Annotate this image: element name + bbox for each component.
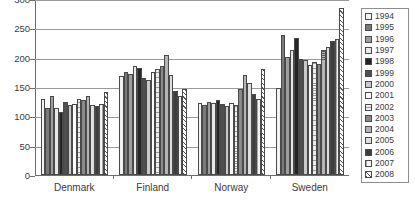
- legend-item-1998[interactable]: 1998: [365, 56, 406, 67]
- legend-item-label: 2003: [375, 114, 394, 123]
- legend-swatch-icon: [365, 160, 372, 167]
- legend-item-label: 1995: [375, 23, 394, 32]
- bar-sweden-2008[interactable]: [339, 8, 344, 175]
- bar-group-finland: [114, 0, 193, 175]
- legend-item-label: 1997: [375, 46, 394, 55]
- legend-item-label: 2004: [375, 125, 394, 134]
- legend-swatch-icon: [365, 47, 372, 54]
- legend-swatch-icon: [365, 24, 372, 31]
- legend-item-label: 2006: [375, 148, 394, 157]
- bar-set: [198, 0, 266, 175]
- bar-norway-2008[interactable]: [261, 69, 266, 175]
- legend-item-label: 2001: [375, 91, 394, 100]
- legend-item-label: 1998: [375, 57, 394, 66]
- legend-item-label: 2002: [375, 103, 394, 112]
- legend-swatch-icon: [365, 171, 372, 178]
- legend-item-1995[interactable]: 1995: [365, 22, 406, 33]
- y-axis-tick-label: 150: [2, 83, 30, 93]
- legend-item-1997[interactable]: 1997: [365, 45, 406, 56]
- legend-swatch-icon: [365, 81, 372, 88]
- legend-item-label: 2008: [375, 170, 394, 179]
- plot-area: 300250200150100500 DenmarkFinlandNorwayS…: [0, 0, 355, 204]
- legend-item-1994[interactable]: 1994: [365, 11, 406, 22]
- bar-groups: [35, 0, 349, 175]
- x-axis-label-norway: Norway: [192, 182, 271, 193]
- legend-swatch-icon: [365, 58, 372, 65]
- legend-item-label: 2007: [375, 159, 394, 168]
- bar-denmark-2008[interactable]: [104, 92, 109, 175]
- y-axis-tick-label: 50: [2, 142, 30, 152]
- legend-item-2001[interactable]: 2001: [365, 90, 406, 101]
- legend-swatch-icon: [365, 36, 372, 43]
- y-axis-tick-label: 200: [2, 54, 30, 64]
- legend-item-2008[interactable]: 2008: [365, 169, 406, 180]
- legend-item-2000[interactable]: 2000: [365, 79, 406, 90]
- legend-item-2002[interactable]: 2002: [365, 101, 406, 112]
- legend-item-2007[interactable]: 2007: [365, 158, 406, 169]
- legend-item-1996[interactable]: 1996: [365, 34, 406, 45]
- y-axis-tick-label: 250: [2, 24, 30, 34]
- legend-swatch-icon: [365, 137, 372, 144]
- legend-item-label: 1994: [375, 12, 394, 21]
- legend-item-label: 1996: [375, 35, 394, 44]
- legend-swatch-icon: [365, 92, 372, 99]
- bar-group-sweden: [271, 0, 350, 175]
- legend-swatch-icon: [365, 149, 372, 156]
- x-axis-label-denmark: Denmark: [35, 182, 114, 193]
- legend-item-label: 2005: [375, 136, 394, 145]
- legend-swatch-icon: [365, 70, 372, 77]
- legend-item-1999[interactable]: 1999: [365, 67, 406, 78]
- x-axis-line: [35, 175, 349, 176]
- plot-panel: [35, 0, 349, 176]
- legend-item-2006[interactable]: 2006: [365, 147, 406, 158]
- legend-swatch-icon: [365, 104, 372, 111]
- bar-set: [119, 0, 187, 175]
- y-axis-tick-label: 300: [2, 0, 30, 5]
- chart-legend: 1994199519961997199819992000200120022003…: [361, 8, 409, 183]
- legend-item-2003[interactable]: 2003: [365, 113, 406, 124]
- legend-item-2004[interactable]: 2004: [365, 124, 406, 135]
- y-axis-tick-mark: [30, 176, 35, 177]
- x-axis-labels: DenmarkFinlandNorwaySweden: [35, 182, 349, 193]
- legend-swatch-icon: [365, 115, 372, 122]
- bar-group-norway: [192, 0, 271, 175]
- legend-item-label: 2000: [375, 80, 394, 89]
- bar-set: [41, 0, 109, 175]
- bar-finland-2008[interactable]: [182, 89, 187, 175]
- x-axis-label-sweden: Sweden: [271, 182, 350, 193]
- y-axis-tick-label: 0: [2, 171, 30, 181]
- legend-item-2005[interactable]: 2005: [365, 135, 406, 146]
- legend-swatch-icon: [365, 13, 372, 20]
- x-axis-label-finland: Finland: [114, 182, 193, 193]
- legend-item-label: 1999: [375, 69, 394, 78]
- y-axis-labels: 300250200150100500: [0, 0, 30, 176]
- y-axis-tick-label: 100: [2, 112, 30, 122]
- bar-set: [276, 0, 344, 175]
- legend-swatch-icon: [365, 126, 372, 133]
- bar-group-denmark: [35, 0, 114, 175]
- chart-root: 300250200150100500 DenmarkFinlandNorwayS…: [0, 0, 415, 204]
